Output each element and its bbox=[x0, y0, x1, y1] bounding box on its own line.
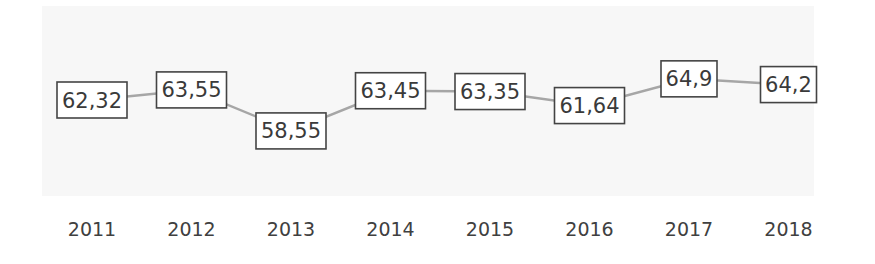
data-label-text: 63,35 bbox=[460, 80, 520, 104]
data-label: 64,2 bbox=[761, 67, 817, 103]
x-axis-tick-labels: 20112012201320142015201620172018 bbox=[68, 218, 813, 240]
data-label-text: 64,2 bbox=[765, 73, 812, 97]
data-label-text: 64,9 bbox=[666, 67, 713, 91]
x-tick-label: 2012 bbox=[167, 218, 215, 240]
x-tick-label: 2018 bbox=[764, 218, 812, 240]
x-tick-label: 2016 bbox=[565, 218, 613, 240]
data-label-text: 62,32 bbox=[62, 89, 122, 113]
line-chart: 62,3263,5558,5563,4563,3561,6464,964,2 2… bbox=[0, 0, 875, 264]
x-tick-label: 2014 bbox=[366, 218, 414, 240]
data-label: 63,55 bbox=[157, 72, 227, 108]
data-label: 62,32 bbox=[57, 82, 127, 118]
data-label: 64,9 bbox=[661, 61, 717, 97]
data-label-text: 61,64 bbox=[559, 94, 619, 118]
x-tick-label: 2011 bbox=[68, 218, 116, 240]
x-tick-label: 2017 bbox=[665, 218, 713, 240]
data-label: 63,45 bbox=[356, 73, 426, 109]
data-label-text: 58,55 bbox=[261, 119, 321, 143]
data-label-text: 63,55 bbox=[161, 78, 221, 102]
x-tick-label: 2015 bbox=[466, 218, 514, 240]
data-label-text: 63,45 bbox=[360, 79, 420, 103]
data-label: 63,35 bbox=[455, 74, 525, 110]
data-label: 61,64 bbox=[555, 88, 625, 124]
data-label: 58,55 bbox=[256, 113, 326, 149]
x-tick-label: 2013 bbox=[267, 218, 315, 240]
